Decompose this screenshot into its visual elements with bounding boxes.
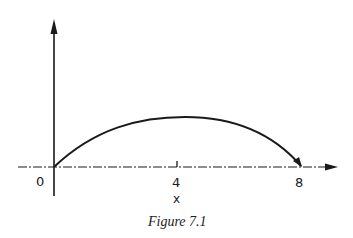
figure-caption: Figure 7.1 [147, 214, 207, 229]
x-axis-label: x [173, 192, 180, 206]
tick-label-8: 8 [295, 175, 303, 190]
x-axis-arrow-icon [325, 164, 338, 171]
figure-7-1: 0 4 8 x Figure 7.1 [0, 0, 353, 238]
trajectory-curve [54, 117, 301, 167]
origin-label: 0 [36, 174, 44, 189]
y-axis [51, 19, 58, 196]
tick-label-4: 4 [172, 175, 180, 190]
y-axis-arrow-icon [51, 19, 58, 34]
x-axis [18, 161, 338, 171]
